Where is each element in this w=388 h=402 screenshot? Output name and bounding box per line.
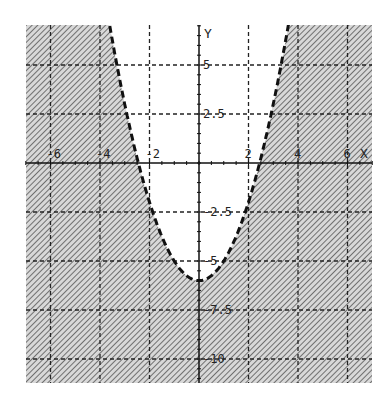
y-axis-label: Y: [204, 26, 212, 41]
graph-canvas: -6-4-224652.5-2.5-5-7.5-10XY: [0, 0, 388, 402]
y-tick-label: -10: [203, 352, 225, 366]
y-tick-label: -2.5: [203, 205, 232, 219]
y-tick-label: 5: [203, 58, 210, 72]
y-tick-label: -7.5: [203, 303, 232, 317]
y-tick-label: -5: [203, 254, 217, 268]
x-tick-label: -2: [146, 147, 160, 161]
x-tick-label: 6: [344, 147, 351, 161]
x-tick-label: 4: [294, 147, 301, 161]
x-axis-label: X: [360, 146, 368, 161]
x-tick-label: -4: [96, 147, 110, 161]
y-tick-label: 2.5: [203, 107, 225, 121]
x-tick-label: -6: [47, 147, 61, 161]
x-tick-label: 2: [245, 147, 252, 161]
